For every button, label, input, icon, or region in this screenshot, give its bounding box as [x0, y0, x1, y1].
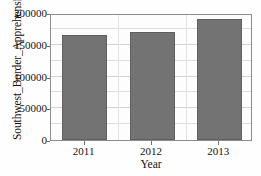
y-tick-label: 200000: [1, 8, 47, 19]
y-tick-label: 150000: [1, 40, 47, 51]
x-axis-title: Year: [50, 158, 252, 171]
y-tick-mark: [46, 141, 50, 142]
y-tick-label: 0: [1, 135, 47, 146]
y-tick-label: 50000: [1, 103, 47, 114]
bar-2012: [130, 32, 175, 140]
vertical-gridline: [186, 15, 187, 140]
x-tick-label: 2013: [188, 145, 248, 157]
y-axis-title: Southwest_Border_Apprehensions: [10, 0, 24, 140]
plot-area: [50, 14, 252, 141]
bar-2011: [62, 35, 107, 140]
bar-chart-figure: Southwest_Border_Apprehensions 050000100…: [0, 0, 261, 176]
y-tick-label: 100000: [1, 72, 47, 83]
x-tick-label: 2012: [121, 145, 181, 157]
x-tick-label: 2011: [54, 145, 114, 157]
bar-2013: [197, 19, 242, 140]
vertical-gridline: [118, 15, 119, 140]
